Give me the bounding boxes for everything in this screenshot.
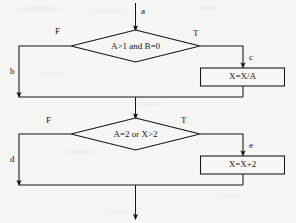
edge-label-d: d — [10, 155, 15, 164]
decision-2-false-label: F — [46, 116, 51, 125]
decision-2-condition: A=2 or X>2 — [71, 130, 200, 139]
edge-label-e: e — [249, 141, 253, 150]
process-1-statement: X=X/A — [200, 72, 285, 81]
decision-2-true-label: T — [181, 116, 187, 125]
edge-true-e — [200, 134, 243, 154]
edge-label-c: c — [249, 53, 253, 62]
decision-1-true-label: T — [193, 29, 199, 38]
edge-label-a: a — [141, 7, 145, 16]
decision-1-condition: A>1 and B=0 — [71, 42, 200, 51]
flowchart-graphics — [0, 0, 296, 223]
decision-1-false-label: F — [55, 27, 60, 36]
edge-false-d — [19, 134, 71, 183]
process-2-statement: X=X+2 — [200, 160, 285, 169]
edge-true-c — [200, 46, 243, 66]
edge-false-b — [19, 46, 71, 95]
edge-label-b: b — [10, 67, 15, 76]
flowchart-canvas: a A>1 and B=0 F T b c X=X/A A=2 or X>2 F… — [0, 0, 296, 223]
